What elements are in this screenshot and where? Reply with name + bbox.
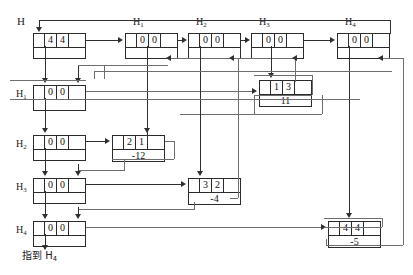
connector-row1-right	[86, 91, 253, 92]
node-cell: 0	[349, 34, 361, 47]
node-cell: 0	[57, 136, 69, 149]
node-cell: 0	[45, 136, 57, 149]
connector-rec44-bottom-return	[326, 245, 403, 246]
connector-row3-to-rec32	[86, 184, 182, 185]
node-cell	[34, 179, 45, 192]
connector-col3-down	[271, 46, 272, 74]
node-cell: 0	[149, 34, 161, 47]
node-cell	[373, 34, 384, 47]
node-cell	[34, 222, 45, 235]
arrow-rec32-icon	[181, 181, 186, 187]
arrow-caption-icon	[42, 245, 48, 250]
node-cell: 0	[45, 86, 57, 99]
arrow-row3-col-icon	[75, 171, 81, 176]
orthogonal-linked-list-diagram: H H1 H2 H3 H4 H1 H2 H3 H4 指到 H4 4 4 0 0 …	[0, 0, 413, 275]
arrow-head-entry-icon	[36, 27, 42, 32]
connector-row2-down	[45, 148, 46, 172]
connector-rec44-loop-top	[324, 218, 382, 219]
connector-col1-return-riser	[295, 58, 296, 82]
arrow-row1-right-icon	[252, 88, 257, 94]
column-header-label-h2: H2	[196, 17, 207, 29]
connector-rec21-down	[124, 159, 125, 171]
connector-row3-down	[45, 191, 46, 215]
arrow-row2-icon	[42, 128, 48, 133]
node-head-row4: 0 0	[33, 221, 86, 247]
column-header-label-h3: H3	[259, 17, 270, 29]
row-header-label-h4: H4	[16, 225, 27, 237]
node-cell: 0	[57, 222, 69, 235]
node-cell: 0	[45, 222, 57, 235]
node-cell	[69, 86, 80, 99]
connector-col4-return-v	[403, 58, 404, 245]
connector-upper-band-left	[94, 71, 95, 79]
node-cell: 4	[352, 222, 364, 235]
node-cell: 0	[200, 34, 212, 47]
connector-rec21-down-h	[78, 170, 124, 171]
connector-head-to-col1	[86, 40, 119, 41]
connector-col2-down	[200, 46, 201, 172]
node-cell	[252, 34, 263, 47]
connector-rec13-loop-bottom	[254, 95, 312, 96]
caption-points-to-h4: 指到 H4	[22, 251, 57, 263]
node-cell: 0	[263, 34, 275, 47]
connector-col4-return-h	[383, 58, 403, 59]
node-head-main: 4 4	[33, 33, 86, 59]
node-lower-band	[34, 99, 85, 110]
arrow-col2-icon	[182, 37, 187, 43]
connector-col1-into-row1	[78, 65, 79, 79]
node-cell: 3	[200, 179, 212, 192]
connector-rec21-return-h	[104, 65, 168, 66]
arrow-col3-icon	[245, 37, 250, 43]
node-cell	[69, 222, 80, 235]
node-cell: 1	[271, 81, 283, 94]
connector-rec32-to-col2-return	[230, 198, 238, 199]
node-cell	[148, 136, 159, 149]
connector-rec21-right-v	[174, 141, 175, 159]
node-cell	[126, 34, 137, 47]
node-cell: 3	[283, 81, 295, 94]
node-cell: 0	[57, 179, 69, 192]
connector-rec44-bottom-riser	[326, 239, 327, 246]
node-record-4-4: 4 4 -5	[328, 221, 381, 248]
arrow-row4-icon	[42, 214, 48, 219]
connector-rec32-down-h	[78, 209, 194, 210]
node-cell	[69, 34, 80, 47]
connector-rec44-loop-mid	[324, 227, 382, 228]
node-cell: 0	[212, 34, 224, 47]
node-lower-band	[34, 47, 85, 58]
connector-rec21-return-v-left	[104, 65, 105, 79]
connector-row4-right	[86, 227, 322, 228]
node-cell: 4	[45, 34, 57, 47]
column-header-label-h1: H1	[133, 17, 144, 29]
node-head-row3: 0 0	[33, 178, 86, 204]
node-cell	[189, 34, 200, 47]
node-cell	[224, 34, 235, 47]
connector-row2-to-rec21	[86, 141, 106, 142]
node-cell: 4	[340, 222, 352, 235]
arrow-row3-icon	[42, 171, 48, 176]
connector-col1-row1-bridge	[78, 65, 104, 66]
arrow-col3-return-icon	[292, 55, 297, 61]
node-cell	[113, 136, 124, 149]
node-cell	[364, 222, 375, 235]
node-cell: 2	[212, 179, 224, 192]
node-record-2-1: 2 1 -12	[112, 135, 165, 162]
connector-upper-band	[94, 71, 392, 72]
node-cell	[224, 179, 235, 192]
node-cell	[69, 179, 80, 192]
connector-rec21-right-back	[112, 159, 174, 160]
node-cell: 0	[57, 86, 69, 99]
connector-col2-return-v	[238, 58, 239, 198]
connector-rec13-lower-left	[10, 80, 86, 81]
node-cell	[161, 34, 172, 47]
arrow-col1-icon	[118, 37, 123, 43]
node-cell	[338, 34, 349, 47]
node-cell	[189, 179, 200, 192]
connector-rec13-loop-top	[254, 75, 312, 76]
connector-rec21-right	[165, 141, 174, 142]
node-cell	[260, 81, 271, 94]
connector-row1-down	[45, 98, 46, 129]
node-lower-band	[34, 149, 85, 160]
connector-rec13-loop-right	[312, 75, 313, 95]
row-header-label-h3: H3	[16, 182, 27, 194]
